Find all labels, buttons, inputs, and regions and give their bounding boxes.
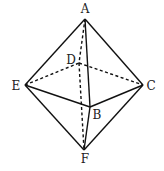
label-A: A	[80, 2, 90, 16]
label-B: B	[93, 108, 102, 122]
edge-BC	[90, 85, 143, 107]
label-D: D	[66, 53, 76, 67]
octahedron-diagram: A B C D E F	[0, 0, 164, 171]
edge-AE	[25, 19, 85, 85]
edge-AB	[85, 19, 90, 107]
edge-DF	[79, 63, 84, 150]
label-E: E	[12, 79, 21, 93]
label-C: C	[146, 79, 155, 93]
dashed-edges	[25, 19, 143, 150]
edge-AC	[85, 19, 143, 85]
label-F: F	[81, 152, 89, 166]
solid-edges	[25, 19, 143, 150]
